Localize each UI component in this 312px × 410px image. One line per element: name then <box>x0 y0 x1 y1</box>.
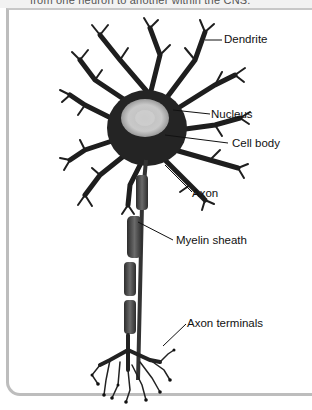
label-cell-body: Cell body <box>232 137 280 149</box>
label-nucleus: Nucleus <box>211 108 253 120</box>
label-dendrite: Dendrite <box>224 33 267 45</box>
label-axon-terminals: Axon terminals <box>187 317 263 329</box>
neuron-diagram <box>0 0 312 410</box>
label-myelin-sheath: Myelin sheath <box>176 234 247 246</box>
axon-terminals <box>91 335 176 404</box>
label-axon: Axon <box>192 187 218 199</box>
